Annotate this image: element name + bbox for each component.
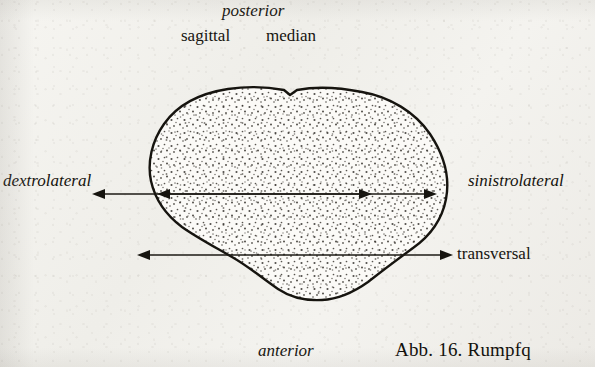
label-posterior: posterior bbox=[222, 2, 284, 19]
label-dextrolateral: dextrolateral bbox=[3, 172, 91, 189]
label-median: median bbox=[266, 27, 316, 44]
label-sagittal: sagittal bbox=[181, 27, 230, 44]
label-transversal: transversal bbox=[457, 245, 531, 262]
label-anterior: anterior bbox=[258, 342, 314, 359]
label-sinistrolateral: sinistrolateral bbox=[468, 172, 564, 189]
figure-caption: Abb. 16. Rumpfq bbox=[395, 339, 531, 361]
